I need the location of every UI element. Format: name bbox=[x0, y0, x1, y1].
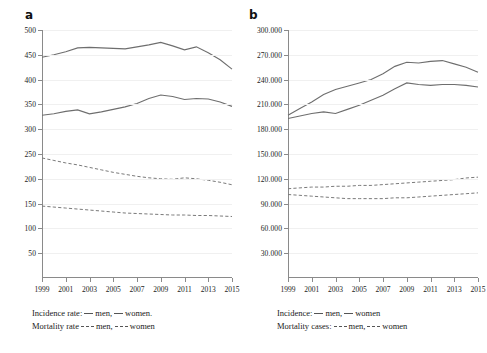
panel-b-legend-mortality-prefix: Mortality cases: bbox=[277, 321, 332, 331]
gridline bbox=[289, 129, 478, 130]
y-axis-tick-label: 30.000 bbox=[261, 249, 282, 258]
x-axis-tick-label: 2005 bbox=[352, 285, 367, 294]
gridline bbox=[289, 228, 478, 229]
y-axis-tick bbox=[284, 104, 288, 105]
x-axis-tick bbox=[312, 278, 313, 282]
x-axis-tick bbox=[407, 278, 408, 282]
gridline bbox=[289, 55, 478, 56]
gridline bbox=[289, 253, 478, 254]
x-axis-tick-label: 2001 bbox=[304, 285, 319, 294]
y-axis-tick bbox=[284, 129, 288, 130]
panel-b-legend-mortality-men: men, bbox=[349, 321, 366, 331]
x-axis-tick-label: 2005 bbox=[106, 285, 121, 294]
x-axis-tick bbox=[208, 278, 209, 282]
y-axis-tick-label: 270.000 bbox=[257, 50, 282, 59]
x-axis-tick-label: 2003 bbox=[328, 285, 343, 294]
gridline bbox=[289, 30, 478, 31]
x-axis-tick-label: 1999 bbox=[35, 285, 50, 294]
x-axis-tick bbox=[185, 278, 186, 282]
panel-b-legend-incidence-women: women bbox=[355, 308, 380, 318]
dashed-line-icon bbox=[367, 326, 380, 327]
gridline bbox=[43, 104, 232, 105]
panel-a-legend-mortality-prefix: Mortality rate bbox=[32, 321, 79, 331]
x-axis-tick-label: 2009 bbox=[153, 285, 168, 294]
panel-b-legend-incidence-men: men, bbox=[325, 308, 342, 318]
x-axis-tick-label: 2003 bbox=[82, 285, 97, 294]
y-axis-tick bbox=[38, 228, 42, 229]
gridline bbox=[289, 80, 478, 81]
panel-b-legend-incidence-prefix: Incidence: bbox=[277, 308, 312, 318]
solid-line-icon bbox=[114, 313, 123, 314]
y-axis-tick bbox=[38, 104, 42, 105]
y-axis-tick bbox=[38, 80, 42, 81]
y-axis-tick bbox=[284, 154, 288, 155]
series-line-mortality-cases-women bbox=[288, 193, 478, 199]
panel-a-legend-mortality-women: women bbox=[130, 321, 155, 331]
gridline bbox=[289, 154, 478, 155]
x-axis-tick-label: 2013 bbox=[447, 285, 462, 294]
x-axis-tick bbox=[431, 278, 432, 282]
x-axis-tick bbox=[478, 278, 479, 282]
panel-a-legend-mortality: Mortality ratemen,women bbox=[32, 320, 155, 333]
gridline bbox=[43, 253, 232, 254]
panel-a-legend-incidence-men: men, bbox=[95, 308, 112, 318]
x-axis-tick bbox=[66, 278, 67, 282]
x-axis-tick-label: 2007 bbox=[376, 285, 391, 294]
x-axis-tick-label: 2011 bbox=[177, 285, 192, 294]
x-axis-tick bbox=[161, 278, 162, 282]
y-axis-tick-label: 100 bbox=[24, 224, 36, 233]
gridline bbox=[43, 80, 232, 81]
x-axis-tick-label: 2011 bbox=[423, 285, 438, 294]
y-axis-tick-label: 180.000 bbox=[257, 125, 282, 134]
y-axis-tick bbox=[38, 179, 42, 180]
y-axis-tick-label: 450 bbox=[24, 50, 36, 59]
figure-container: a 50100150200250300350400450500199920012… bbox=[0, 0, 487, 353]
y-axis-tick-label: 90.000 bbox=[261, 199, 282, 208]
x-axis-tick bbox=[137, 278, 138, 282]
y-axis-tick bbox=[284, 179, 288, 180]
solid-line-icon bbox=[84, 313, 93, 314]
x-axis-tick-label: 2013 bbox=[201, 285, 216, 294]
y-axis-tick-label: 250 bbox=[24, 150, 36, 159]
y-axis-tick-label: 200 bbox=[24, 174, 36, 183]
x-axis-tick-label: 1999 bbox=[281, 285, 296, 294]
x-axis-tick-label: 2015 bbox=[471, 285, 486, 294]
x-axis-tick bbox=[232, 278, 233, 282]
gridline bbox=[43, 129, 232, 130]
x-axis-tick-label: 2001 bbox=[58, 285, 73, 294]
x-axis-tick bbox=[383, 278, 384, 282]
series-line-mortality-rate-men bbox=[42, 158, 232, 185]
y-axis-tick-label: 350 bbox=[24, 100, 36, 109]
y-axis-tick-label: 500 bbox=[24, 26, 36, 35]
panel-b-legend: Incidence:men,women Mortality cases:men,… bbox=[277, 307, 407, 333]
y-axis-tick bbox=[284, 253, 288, 254]
y-axis-tick bbox=[38, 30, 42, 31]
y-axis-tick-label: 120.000 bbox=[257, 174, 282, 183]
panel-b-legend-mortality-women: women bbox=[382, 321, 407, 331]
gridline bbox=[43, 154, 232, 155]
gridline bbox=[289, 179, 478, 180]
gridline bbox=[43, 55, 232, 56]
x-axis-tick bbox=[90, 278, 91, 282]
y-axis-tick bbox=[38, 253, 42, 254]
x-axis-tick bbox=[113, 278, 114, 282]
y-axis-tick-label: 400 bbox=[24, 75, 36, 84]
y-axis-tick bbox=[284, 80, 288, 81]
x-axis-tick bbox=[42, 278, 43, 282]
gridline bbox=[43, 228, 232, 229]
dashed-line-icon bbox=[81, 326, 94, 327]
dashed-line-icon bbox=[334, 326, 347, 327]
y-axis-tick-label: 50 bbox=[28, 249, 36, 258]
y-axis-tick bbox=[284, 204, 288, 205]
panel-a: a 50100150200250300350400450500199920012… bbox=[0, 0, 243, 353]
panel-b-label: b bbox=[249, 8, 258, 22]
panel-b: b 30.00060.00090.000120.000150.000180.00… bbox=[243, 0, 486, 353]
solid-line-icon bbox=[314, 313, 323, 314]
y-axis-tick-label: 300 bbox=[24, 125, 36, 134]
y-axis-tick-label: 240.000 bbox=[257, 75, 282, 84]
x-axis-tick bbox=[336, 278, 337, 282]
x-axis-tick bbox=[454, 278, 455, 282]
gridline bbox=[289, 204, 478, 205]
series-line-incidence-women bbox=[288, 83, 478, 119]
y-axis-tick bbox=[38, 55, 42, 56]
